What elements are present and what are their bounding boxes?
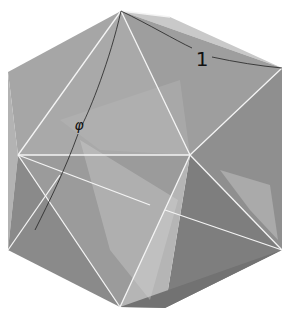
label-phi: φ bbox=[74, 117, 84, 133]
icosahedron-diagram: φ 1 bbox=[0, 0, 289, 314]
label-one: 1 bbox=[196, 47, 209, 71]
